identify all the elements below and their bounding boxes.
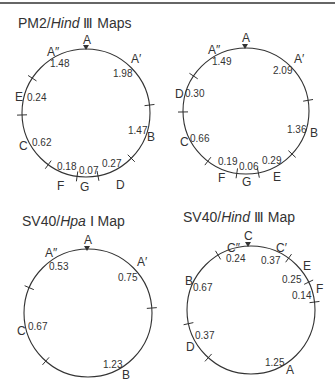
genome-circle [24,249,152,377]
fragment-length: 1.25 [265,357,285,368]
fragment-label: G [242,175,251,189]
fragment-length: 1.36 [287,124,307,135]
fragment-length: 0.37 [261,255,281,266]
fragment-label: D [186,340,195,354]
fragment-label: G [80,180,89,194]
fragment-label: C [17,324,26,338]
fragment-label: A″ [47,45,60,59]
restriction-map-sv40-hpa1: SV40/Hpa Ⅰ MapAA″A′CB0.530.750.671.23 [17,213,157,382]
cleavage-site-tick [76,171,77,181]
restriction-maps-diagram: PM2/Hind Ⅲ MapsAA″A′ECFGDB1.481.980.240.… [0,0,335,389]
cleavage-site-tick [215,251,220,260]
fragment-length: 0.29 [262,155,282,166]
fragment-label: B [310,126,318,140]
fragment-label: E [273,170,281,184]
fragment-label: C [180,135,189,149]
fragment-length: 0.06 [239,161,259,172]
fragment-label: D [175,87,184,101]
fragment-label: A′ [294,52,305,66]
fragment-length: 0.18 [57,161,77,172]
fragment-length: 0.25 [282,274,302,285]
cleavage-site-tick [145,104,155,105]
fragment-length: 0.67 [28,321,48,332]
fragment-label: B [122,368,130,382]
fragment-label: B [147,130,155,144]
cleavage-site-tick [286,254,292,262]
fragment-length: 1.98 [113,68,133,79]
cleavage-site-tick [45,161,51,169]
map-title: SV40/Hind Ⅲ Map [183,209,295,225]
fragment-length: 0.27 [102,158,122,169]
fragment-length: 0.37 [195,330,215,341]
cleavage-site-tick [310,301,320,302]
fragment-label: D [116,178,125,192]
fragment-length: 0.19 [218,156,238,167]
cleavage-site-tick [147,308,157,309]
fragment-label: A [84,233,92,247]
map-title: SV40/Hpa Ⅰ Map [22,213,125,229]
fragment-length: 0.24 [27,92,47,103]
fragment-length: 0.53 [49,261,69,272]
fragment-label: A′ [131,52,142,66]
fragment-length: 0.14 [292,290,312,301]
fragment-length: 1.48 [50,58,70,69]
fragment-label: A″ [45,246,58,260]
fragment-length: 0.66 [190,133,210,144]
restriction-map-pm2-hind3-1: PM2/Hind Ⅲ MapsAA″A′ECFGDB1.481.980.240.… [15,15,155,194]
fragment-label: C [19,139,28,153]
cleavage-site-tick [189,73,197,79]
fragment-label: A [83,33,91,47]
cleavage-site-tick [304,280,313,284]
cleavage-site-tick [205,157,211,165]
fragment-length: 0.30 [185,88,205,99]
cleavage-site-tick [28,75,36,80]
fragment-label: E [303,259,311,273]
fragment-length: 0.07 [79,165,99,176]
restriction-map-sv40-hind3: SV40/Hind Ⅲ MapCC″C′EFBDA0.240.370.250.1… [183,209,323,377]
fragment-label: A′ [137,255,148,269]
map-title: PM2/Hind Ⅲ Maps [18,15,132,31]
fragment-label: C′ [276,241,288,255]
fragment-label: F [316,282,323,296]
fragment-length: 1.23 [103,359,123,370]
fragment-label: A [242,31,250,45]
fragment-label: F [218,171,225,185]
fragment-length: 0.75 [118,272,138,283]
fragment-length: 1.49 [212,56,232,67]
restriction-map-pm2-hind3-2: AA″A′DCFGEB1.492.090.300.660.190.060.291… [175,31,318,189]
fragment-label: B [185,274,193,288]
fragment-label: C [244,229,253,243]
fragment-label: E [15,90,23,104]
fragment-label: A″ [208,43,221,57]
fragment-length: 0.24 [226,253,246,264]
genome-circle [187,246,315,374]
fragment-label: F [57,179,64,193]
fragment-length: 1.47 [128,125,148,136]
fragment-length: 2.09 [273,65,293,76]
fragment-length: 0.67 [193,282,213,293]
fragment-length: 0.62 [32,137,52,148]
fragment-label: A [286,363,294,377]
